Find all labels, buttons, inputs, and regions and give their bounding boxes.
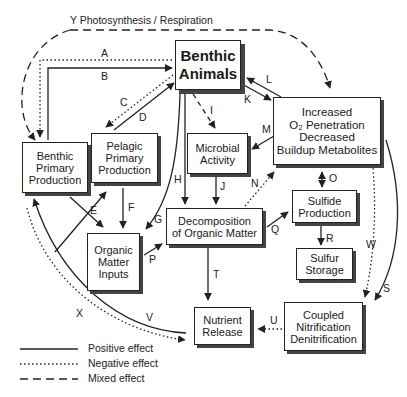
node-label: Decomposition [178, 215, 251, 227]
edge-label-a: A [101, 47, 108, 59]
legend-negative: Negative effect [88, 357, 158, 369]
node-increased-o2: Increased O₂ Penetration Decreased Build… [273, 97, 381, 165]
node-label: Sulfide [308, 195, 342, 207]
node-label: Sulfur [310, 252, 339, 264]
node-sulfur-storage: Sulfur Storage [296, 248, 353, 280]
node-label: Denitrification [290, 333, 357, 345]
edge-label-t: T [213, 268, 219, 280]
node-label: Production [98, 164, 151, 176]
node-label: Decreased [299, 131, 355, 144]
edge-label-s: S [383, 282, 390, 294]
node-pelagic-primary-production: Pelagic Primary Production [91, 133, 158, 183]
edge-label-g: G [154, 213, 162, 225]
edge-label-p: P [149, 253, 156, 265]
node-label: O₂ Penetration [289, 119, 364, 132]
node-microbial-activity: Microbial Activity [187, 133, 248, 174]
node-sulfide-production: Sulfide Production [292, 190, 357, 223]
edge-label-r: R [326, 232, 334, 244]
node-label: Storage [305, 264, 344, 276]
node-benthic-animals: Benthic Animals [175, 40, 241, 90]
node-label: Inputs [99, 268, 129, 280]
edge-label-c: C [120, 96, 128, 108]
edge-label-b: B [101, 70, 108, 82]
node-coupled-nitrification: Coupled Nitrification Denitrification [284, 302, 363, 351]
edge-label-d: D [139, 111, 147, 123]
edge-label-w: W [366, 238, 376, 250]
node-label: Nutrient [203, 314, 242, 326]
node-label: Buildup Metabolites [277, 144, 377, 157]
node-decomposition: Decomposition of Organic Matter [166, 208, 263, 245]
node-label: of Organic Matter [172, 227, 257, 239]
edge-label-k: K [244, 93, 251, 105]
node-benthic-primary-production: Benthic Primary Production [22, 142, 88, 193]
edge-label-u: U [270, 314, 278, 326]
node-label: Activity [200, 154, 235, 166]
node-label: Increased [302, 106, 353, 119]
edge-label-n: N [251, 177, 259, 189]
edge-label-m: M [262, 123, 271, 135]
node-label: Primary [106, 152, 144, 164]
edge-label-o: O [329, 172, 337, 184]
node-label: Production [29, 174, 82, 186]
edge-label-h: H [174, 173, 182, 185]
edge-label-l: L [266, 73, 272, 85]
node-label: Coupled [303, 309, 344, 321]
node-label: Benthic [37, 150, 74, 162]
legend-mixed: Mixed effect [88, 372, 144, 384]
edge-label-e: E [90, 204, 97, 216]
diagram-title: Y Photosynthesis / Respiration [70, 14, 213, 26]
node-label: Release [202, 326, 242, 338]
edge-label-f: F [128, 201, 134, 213]
node-label: Nitrification [296, 321, 350, 333]
legend-positive: Positive effect [88, 342, 153, 354]
node-label: Benthic Animals [176, 47, 240, 83]
node-label: Primary [36, 162, 74, 174]
node-organic-matter-inputs: Organic Matter Inputs [87, 233, 140, 291]
edge-label-v: V [146, 311, 153, 323]
node-label: Matter [98, 256, 129, 268]
node-label: Production [298, 207, 351, 219]
node-label: Pelagic [106, 140, 142, 152]
edge-label-i: I [210, 104, 213, 116]
node-label: Organic [94, 244, 133, 256]
edge-label-j: J [220, 180, 225, 192]
node-label: Microbial [195, 142, 239, 154]
edge-label-x: X [76, 307, 83, 319]
edge-label-q: Q [271, 223, 279, 235]
node-nutrient-release: Nutrient Release [194, 307, 251, 345]
